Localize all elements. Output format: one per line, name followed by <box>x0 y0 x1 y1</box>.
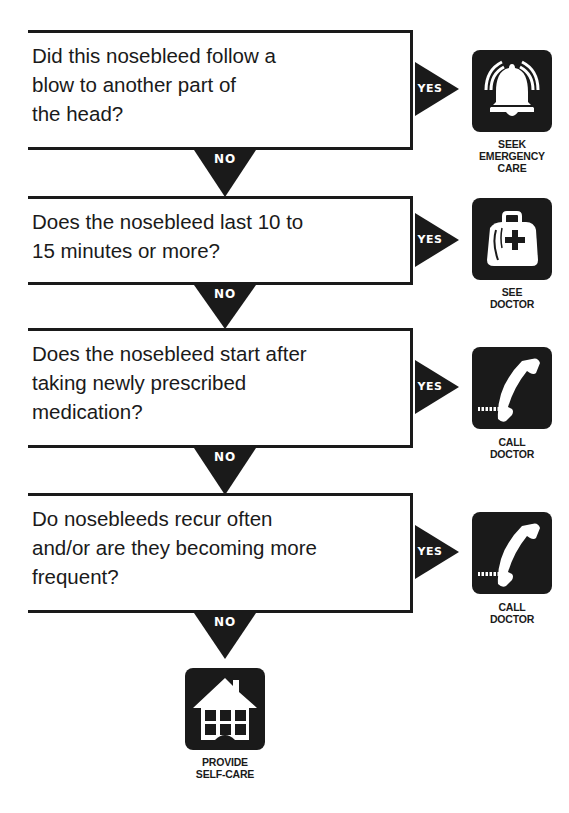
outcome-icon-2 <box>472 198 552 280</box>
caption-line: CARE <box>462 162 562 174</box>
no-arrow-4: NO <box>194 613 256 659</box>
yes-label: YES <box>415 545 445 558</box>
outcome-icon-3 <box>472 347 552 429</box>
no-label: NO <box>194 615 256 629</box>
outcome-caption-3: CALL DOCTOR <box>462 436 562 460</box>
yes-arrow-3: YES <box>415 360 459 414</box>
question-box-4: Do nosebleeds recur often and/or are the… <box>28 493 413 613</box>
caption-line: EMERGENCY <box>462 150 562 162</box>
outcome-icon-4 <box>472 512 552 594</box>
question-box-3: Does the nosebleed start after taking ne… <box>28 328 413 448</box>
question-text-2: Does the nosebleed last 10 to 15 minutes… <box>32 207 370 265</box>
outcome-caption-2: SEE DOCTOR <box>462 286 562 310</box>
caption-line: SELF-CARE <box>175 768 275 780</box>
yes-label: YES <box>415 233 445 246</box>
no-arrow-2: NO <box>194 285 256 329</box>
telephone-icon <box>472 512 552 594</box>
question-box-1: Did this nosebleed follow a blow to anot… <box>28 30 413 150</box>
question-line: and/or are they becoming more <box>32 533 370 562</box>
outcome-caption-1: SEEK EMERGENCY CARE <box>462 138 562 174</box>
bell-icon <box>472 50 552 132</box>
medical-bag-icon <box>472 198 552 280</box>
house-icon <box>185 668 265 750</box>
yes-label: YES <box>415 82 445 95</box>
yes-arrow-4: YES <box>415 525 459 579</box>
no-label: NO <box>194 450 256 464</box>
final-outcome-caption: PROVIDE SELF-CARE <box>175 756 275 780</box>
question-line: frequent? <box>32 562 370 591</box>
outcome-caption-4: CALL DOCTOR <box>462 601 562 625</box>
no-arrow-3: NO <box>194 448 256 495</box>
caption-line: PROVIDE <box>175 756 275 768</box>
question-text-1: Did this nosebleed follow a blow to anot… <box>32 41 370 128</box>
question-line: Does the nosebleed start after <box>32 339 370 368</box>
question-line: Do nosebleeds recur often <box>32 504 370 533</box>
yes-label: YES <box>415 380 445 393</box>
caption-line: DOCTOR <box>462 613 562 625</box>
question-box-2: Does the nosebleed last 10 to 15 minutes… <box>28 196 413 285</box>
caption-line: DOCTOR <box>462 298 562 310</box>
caption-line: SEEK <box>462 138 562 150</box>
question-line: Does the nosebleed last 10 to <box>32 207 370 236</box>
question-line: Did this nosebleed follow a <box>32 41 370 70</box>
no-label: NO <box>194 152 256 166</box>
final-outcome-icon <box>185 668 265 750</box>
caption-line: SEE <box>462 286 562 298</box>
telephone-icon <box>472 347 552 429</box>
question-line: 15 minutes or more? <box>32 236 370 265</box>
caption-line: CALL <box>462 601 562 613</box>
question-line: blow to another part of <box>32 70 370 99</box>
question-line: the head? <box>32 99 370 128</box>
question-text-3: Does the nosebleed start after taking ne… <box>32 339 370 426</box>
question-text-4: Do nosebleeds recur often and/or are the… <box>32 504 370 591</box>
question-line: taking newly prescribed <box>32 368 370 397</box>
caption-line: DOCTOR <box>462 448 562 460</box>
outcome-icon-1 <box>472 50 552 132</box>
yes-arrow-1: YES <box>415 62 459 116</box>
no-label: NO <box>194 287 256 301</box>
yes-arrow-2: YES <box>415 213 459 267</box>
caption-line: CALL <box>462 436 562 448</box>
question-line: medication? <box>32 397 370 426</box>
no-arrow-1: NO <box>194 150 256 197</box>
